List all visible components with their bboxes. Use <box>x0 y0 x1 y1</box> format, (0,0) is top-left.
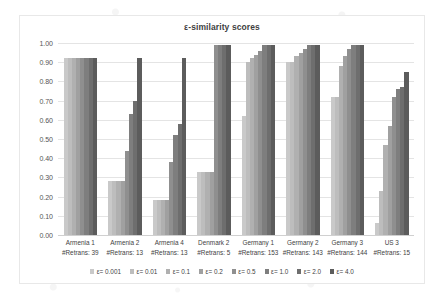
x-axis-label-retrans: #Retrans: 144 <box>325 248 370 258</box>
y-axis-tick: 0.10 <box>39 212 53 219</box>
bar <box>137 58 141 235</box>
legend-item[interactable]: ε= 2.0 <box>297 268 321 275</box>
x-axis-label-name: Denmark 2 <box>198 239 229 246</box>
chart-container: ε-similarity scores 1.000.900.800.700.60… <box>19 15 425 284</box>
y-axis-tick: 0.80 <box>39 78 53 85</box>
legend-swatch-icon <box>199 269 203 274</box>
legend-label: ε= 0.1 <box>173 268 190 275</box>
y-axis-tick: 0.20 <box>39 193 53 200</box>
y-axis-tick: 0.60 <box>39 116 53 123</box>
bar-group <box>103 43 148 235</box>
bar-groups <box>58 43 414 235</box>
gridline <box>58 235 414 236</box>
x-axis-label-retrans: #Retrans: 13 <box>103 248 148 258</box>
x-axis-label-name: Armenia 1 <box>66 239 95 246</box>
x-axis-label: Armenia 4#Retrans: 13 <box>147 238 192 257</box>
legend-item[interactable]: ε= 0.001 <box>90 268 121 275</box>
y-axis-tick: 0.30 <box>39 174 53 181</box>
legend-item[interactable]: ε= 4.0 <box>330 268 354 275</box>
legend-swatch-icon <box>232 269 236 274</box>
legend-label: ε= 0.2 <box>206 268 223 275</box>
x-axis-label: Germany 2#Retrans: 143 <box>281 238 326 257</box>
legend-item[interactable]: ε= 0.01 <box>130 268 157 275</box>
x-axis-label-retrans: #Retrans: 15 <box>370 248 415 258</box>
legend-swatch-icon <box>330 269 334 274</box>
x-axis-label-retrans: #Retrans: 13 <box>147 248 192 258</box>
legend-swatch-icon <box>90 269 94 274</box>
bar <box>271 45 275 235</box>
x-axis-label-name: US 3 <box>385 239 399 246</box>
x-axis-label-name: Armenia 4 <box>155 239 184 246</box>
x-axis-label: Denmark 2#Retrans: 5 <box>192 238 237 257</box>
legend-swatch-icon <box>297 269 301 274</box>
x-axis-label: Armenia 1#Retrans: 39 <box>58 238 103 257</box>
x-axis-label: Armenia 2#Retrans: 13 <box>103 238 148 257</box>
legend-label: ε= 4.0 <box>337 268 354 275</box>
x-axis-label-name: Armenia 2 <box>110 239 139 246</box>
bar-group <box>370 43 415 235</box>
legend-label: ε= 2.0 <box>304 268 321 275</box>
x-axis-label-retrans: #Retrans: 153 <box>236 248 281 258</box>
legend-item[interactable]: ε= 0.2 <box>199 268 223 275</box>
legend-label: ε= 1.0 <box>271 268 288 275</box>
x-axis-labels: Armenia 1#Retrans: 39Armenia 2#Retrans: … <box>58 238 414 257</box>
bar <box>315 45 319 235</box>
bar-group <box>192 43 237 235</box>
x-axis-label-retrans: #Retrans: 5 <box>192 248 237 258</box>
bar-group <box>281 43 326 235</box>
plot-area: 1.000.900.800.700.600.500.400.300.200.10… <box>58 43 414 235</box>
x-axis-label-retrans: #Retrans: 143 <box>281 248 326 258</box>
bar-group <box>147 43 192 235</box>
legend-label: ε= 0.01 <box>137 268 158 275</box>
y-axis-tick: 0.70 <box>39 97 53 104</box>
bar-group <box>58 43 103 235</box>
legend-swatch-icon <box>265 269 269 274</box>
y-axis-tick: 0.00 <box>39 232 53 239</box>
x-axis-label-name: Germany 1 <box>242 239 274 246</box>
bar <box>182 58 186 235</box>
y-axis-tick: 0.40 <box>39 155 53 162</box>
chart-title: ε-similarity scores <box>20 22 424 32</box>
bar <box>93 58 97 235</box>
legend-swatch-icon <box>130 269 134 274</box>
bar-group <box>325 43 370 235</box>
legend-swatch-icon <box>166 269 170 274</box>
bar <box>360 45 364 235</box>
legend-item[interactable]: ε= 1.0 <box>265 268 289 275</box>
x-axis-label-name: Germany 3 <box>331 239 363 246</box>
x-axis-label-name: Germany 2 <box>287 239 319 246</box>
y-axis-tick: 1.00 <box>39 40 53 47</box>
y-axis-tick: 0.90 <box>39 59 53 66</box>
bar <box>226 45 230 235</box>
legend-label: ε= 0.5 <box>238 268 255 275</box>
x-axis-label: Germany 1#Retrans: 153 <box>236 238 281 257</box>
y-axis-tick: 0.50 <box>39 136 53 143</box>
x-axis-label: US 3#Retrans: 15 <box>370 238 415 257</box>
x-axis-label: Germany 3#Retrans: 144 <box>325 238 370 257</box>
bar-group <box>236 43 281 235</box>
x-axis-label-retrans: #Retrans: 39 <box>58 248 103 258</box>
bar <box>404 72 408 235</box>
chart-legend: ε= 0.001ε= 0.01ε= 0.1ε= 0.2ε= 0.5ε= 1.0ε… <box>20 268 424 275</box>
legend-item[interactable]: ε= 0.1 <box>166 268 190 275</box>
legend-label: ε= 0.001 <box>97 268 121 275</box>
legend-item[interactable]: ε= 0.5 <box>232 268 256 275</box>
